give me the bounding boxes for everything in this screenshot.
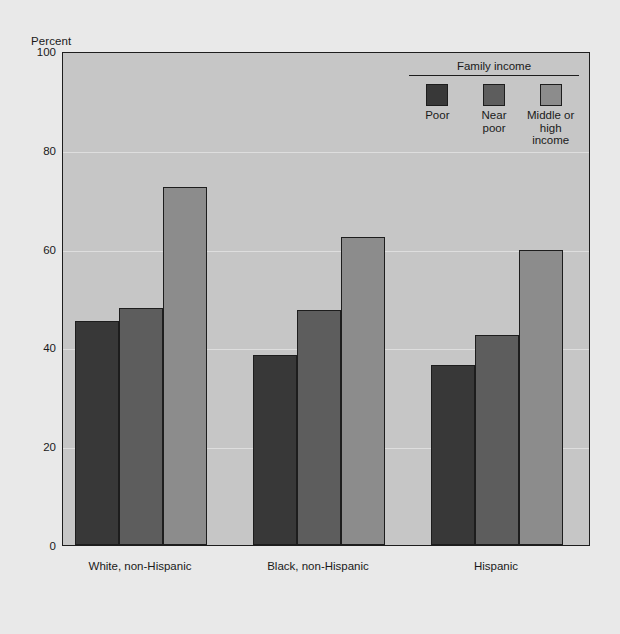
bar <box>297 310 341 545</box>
legend-label: Poor <box>409 109 466 122</box>
legend-items: PoorNear poorMiddle or high income <box>409 84 579 147</box>
gridline <box>63 152 589 153</box>
bar <box>163 187 207 545</box>
legend-label: Middle or high income <box>522 109 579 147</box>
y-axis-title: Percent <box>31 35 71 47</box>
legend-swatch <box>426 84 448 106</box>
bar <box>519 250 563 545</box>
legend: Family incomePoorNear poorMiddle or high… <box>409 60 579 147</box>
legend-item: Poor <box>409 84 466 122</box>
bar <box>431 365 475 545</box>
y-tick-label: 40 <box>14 342 56 354</box>
x-axis-group-label: White, non-Hispanic <box>89 560 192 572</box>
legend-item: Near poor <box>466 84 523 134</box>
legend-label: Near poor <box>466 109 523 134</box>
gridline <box>63 251 589 252</box>
y-tick-label: 0 <box>14 540 56 552</box>
y-tick-label: 20 <box>14 441 56 453</box>
legend-swatch <box>540 84 562 106</box>
bar <box>75 321 119 545</box>
bar <box>341 237 385 545</box>
legend-divider <box>409 75 579 76</box>
x-axis-group-label: Hispanic <box>474 560 518 572</box>
legend-item: Middle or high income <box>522 84 579 147</box>
bar <box>475 335 519 545</box>
y-tick-label: 80 <box>14 145 56 157</box>
chart-figure: Percent 100806040200 White, non-Hispanic… <box>0 0 620 634</box>
y-tick-label: 100 <box>14 46 56 58</box>
bar <box>253 355 297 545</box>
legend-title: Family income <box>409 60 579 72</box>
bar <box>119 308 163 545</box>
legend-swatch <box>483 84 505 106</box>
x-axis-group-label: Black, non-Hispanic <box>267 560 369 572</box>
y-tick-label: 60 <box>14 244 56 256</box>
